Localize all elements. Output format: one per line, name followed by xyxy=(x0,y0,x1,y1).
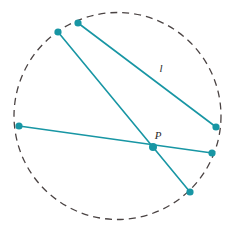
point-upper-left xyxy=(54,28,61,35)
chord-label-l: l xyxy=(159,62,162,74)
point-left xyxy=(15,122,22,129)
labels-group: lP xyxy=(154,62,163,141)
chords-group xyxy=(19,23,216,192)
point-bottom xyxy=(186,188,193,195)
point-top xyxy=(74,19,81,26)
point-right-upper xyxy=(212,123,219,130)
point-label-p: P xyxy=(154,129,162,141)
chord-left-to-right-lower xyxy=(19,126,212,153)
geometry-diagram: lP xyxy=(0,0,231,235)
chord-upper-left-to-bottom xyxy=(58,32,190,192)
point-right-lower xyxy=(208,149,215,156)
geometry-canvas: lP xyxy=(0,0,231,235)
chord-l xyxy=(78,23,216,127)
point-intersection xyxy=(149,143,157,151)
